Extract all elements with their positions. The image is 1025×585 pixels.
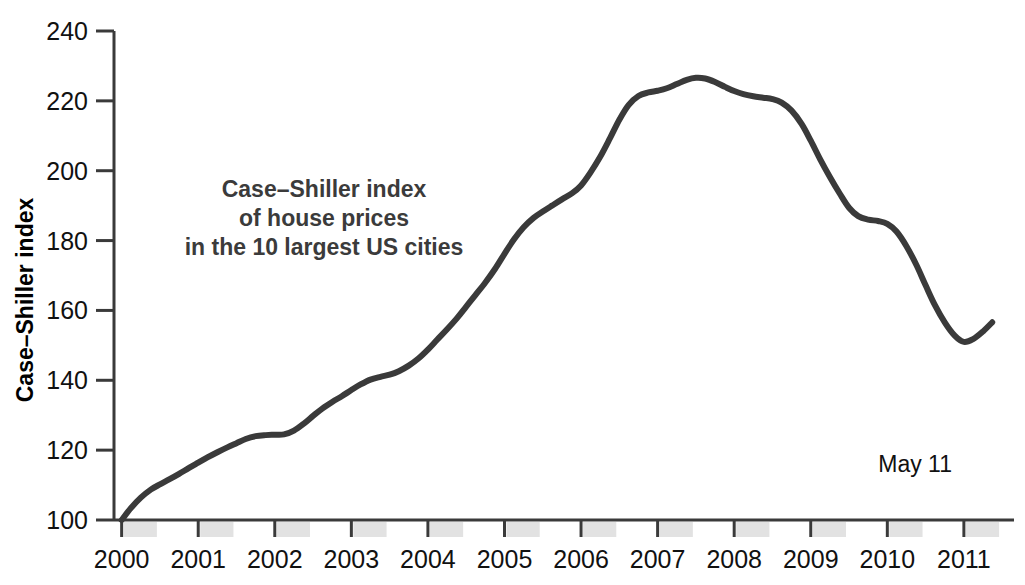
y-axis-title: Case–Shiller index [12,198,38,403]
x-axis-tick-label: 2007 [630,545,686,573]
y-axis-tick-label: 200 [46,157,88,185]
x-axis-tick-label: 2009 [783,545,839,573]
y-axis-tick-label: 100 [46,506,88,534]
chart-container: 100120140160180200220240 200020012002200… [0,0,1025,585]
x-axis-tick-label: 2002 [247,545,303,573]
series-annotation-line: in the 10 largest US cities [185,234,464,260]
x-axis-shading-band [660,522,693,537]
x-axis-tick-label: 2010 [860,545,916,573]
y-axis-tick-label: 140 [46,366,88,394]
chart-background [0,0,1025,585]
x-axis-tick-label: 2000 [94,545,150,573]
y-axis-tick-label: 180 [46,227,88,255]
x-axis-shading-band [966,522,999,537]
x-axis-shading-band [353,522,386,537]
series-annotation-line: of house prices [239,205,409,231]
y-axis-tick-label: 220 [46,87,88,115]
y-axis-tick-label: 120 [46,436,88,464]
x-axis-shading-band [277,522,310,537]
x-axis-shading-band [736,522,769,537]
x-axis-shading-band [430,522,463,537]
x-axis-shading-band [813,522,846,537]
x-axis-tick-label: 2008 [706,545,762,573]
x-axis-tick-label: 2005 [477,545,533,573]
x-axis-tick-label: 2004 [400,545,456,573]
x-axis-tick-label: 2003 [324,545,380,573]
case-shiller-line-chart: 100120140160180200220240 200020012002200… [0,0,1025,585]
x-axis-tick-label: 2006 [553,545,609,573]
x-axis-shading-band [506,522,539,537]
series-annotation-line: Case–Shiller index [222,176,427,202]
y-axis-tick-label: 160 [46,296,88,324]
x-axis-shading-band [583,522,616,537]
y-axis-tick-label: 240 [46,17,88,45]
x-axis-tick-label: 2011 [937,545,991,573]
x-axis-shading-band [200,522,233,537]
x-axis-shading-band [124,522,157,537]
x-axis-tick-label: 2001 [170,545,226,573]
last-point-note-line: May 11 [878,451,952,477]
x-axis-shading-band [889,522,922,537]
